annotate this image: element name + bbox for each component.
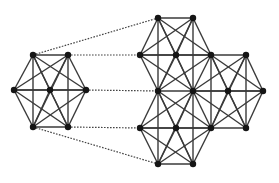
graph-node (30, 52, 36, 58)
graph-node (173, 52, 179, 58)
mapping-line (33, 127, 158, 164)
graph-node (208, 125, 214, 131)
graph-node (190, 161, 196, 167)
graph-node (190, 15, 196, 21)
graph-node (208, 52, 214, 58)
graph-node (137, 125, 143, 131)
graph-embedding-diagram (0, 0, 279, 183)
graph-edge (14, 90, 33, 127)
graph-node (137, 52, 143, 58)
graph-node (47, 87, 53, 93)
graph-node (30, 124, 36, 130)
graph-node (243, 125, 249, 131)
mapping-line (68, 127, 140, 128)
graph-node (225, 88, 231, 94)
graph-node (155, 15, 161, 21)
graph-node (83, 87, 89, 93)
graph-node (155, 88, 161, 94)
graph-edge (14, 55, 33, 90)
graph-node (155, 161, 161, 167)
graph-node (260, 88, 266, 94)
graph-node (65, 52, 71, 58)
mapping-line (86, 90, 158, 91)
graph-node (11, 87, 17, 93)
graph-node (173, 125, 179, 131)
graph-node (65, 124, 71, 130)
graph-node (243, 52, 249, 58)
graph-node (190, 88, 196, 94)
mapping-line (33, 18, 158, 55)
